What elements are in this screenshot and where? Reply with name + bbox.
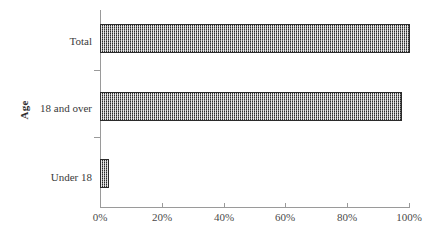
x-axis-line — [100, 207, 410, 208]
x-axis-tick — [162, 203, 163, 208]
x-axis-tick-label: 80% — [337, 211, 357, 223]
y-axis-tick — [94, 70, 101, 71]
x-axis-tick-label: 100% — [396, 211, 422, 223]
x-axis-tick-label: 20% — [152, 211, 172, 223]
x-axis-tick-label: 60% — [275, 211, 295, 223]
y-axis-tick — [94, 137, 101, 138]
y-axis-category-label-18-and-over: 18 and over — [40, 102, 92, 114]
bar-under-18 — [100, 159, 109, 188]
bar-18-and-over — [100, 92, 402, 121]
y-axis-category-label-total: Total — [70, 35, 92, 47]
x-axis-tick — [409, 203, 410, 208]
x-axis-tick — [347, 203, 348, 208]
x-axis-tick — [224, 203, 225, 208]
x-axis-tick — [285, 203, 286, 208]
bar-total — [100, 24, 410, 53]
bar-chart: Age Total 18 and over Under 18 0% 20% 40… — [0, 0, 433, 244]
x-axis-tick — [100, 203, 101, 208]
x-axis-tick-label: 40% — [214, 211, 234, 223]
y-axis-category-label-under-18: Under 18 — [51, 171, 92, 183]
x-axis-tick-label: 0% — [93, 211, 108, 223]
